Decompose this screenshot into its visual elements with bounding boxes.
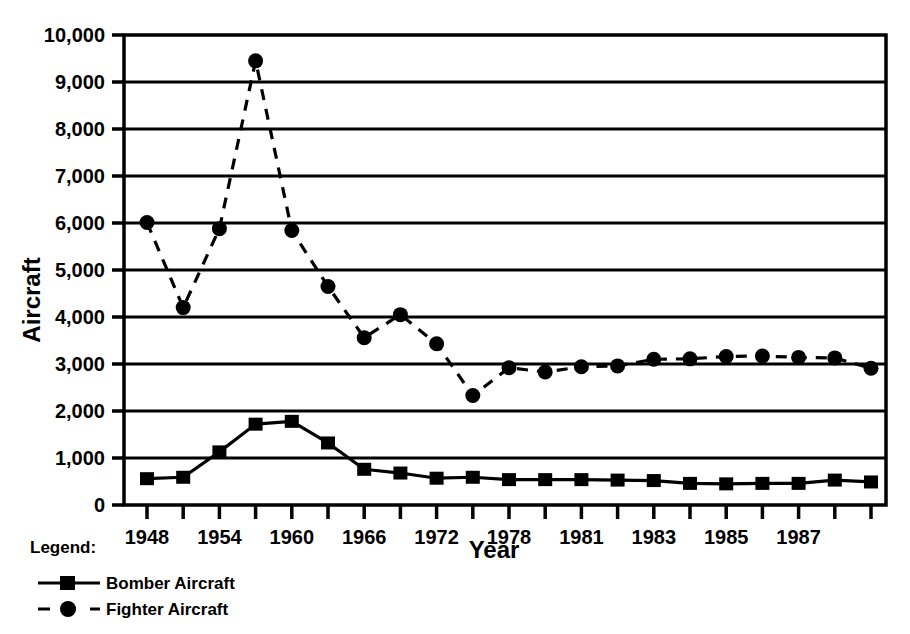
x-tick-label: 1983 xyxy=(632,526,677,548)
data-point-marker xyxy=(828,474,842,487)
chart-legend: Legend: Bomber Aircraft Fighter Aircraft xyxy=(30,538,235,619)
x-tick-label: 1987 xyxy=(776,526,821,548)
x-tick-label: 1966 xyxy=(342,526,387,548)
data-point-marker xyxy=(212,221,227,236)
data-point-marker xyxy=(176,300,191,315)
data-point-marker xyxy=(574,473,588,486)
y-tick-label: 9,000 xyxy=(55,71,105,93)
series-bomber-aircraft xyxy=(140,415,878,491)
data-point-marker xyxy=(284,223,299,238)
x-axis-title: Year xyxy=(469,536,520,563)
y-axis-tick-labels: 01,0002,0003,0004,0005,0006,0007,0008,00… xyxy=(44,24,105,516)
x-tick-label: 1948 xyxy=(125,526,170,548)
data-point-marker xyxy=(538,473,552,486)
series-line xyxy=(147,61,871,396)
data-point-marker xyxy=(248,53,263,68)
data-point-marker xyxy=(393,467,407,480)
y-tick-label: 4,000 xyxy=(55,306,105,328)
x-tick-label: 1985 xyxy=(704,526,749,548)
data-point-marker xyxy=(502,360,517,375)
y-axis-ticks xyxy=(112,35,124,505)
x-tick-label: 1954 xyxy=(197,526,242,548)
series-fighter-aircraft xyxy=(140,53,879,403)
data-point-marker xyxy=(864,361,879,376)
data-point-marker xyxy=(646,352,661,367)
data-point-marker xyxy=(466,471,480,484)
data-point-marker xyxy=(611,474,625,487)
y-gridlines xyxy=(124,82,886,458)
y-tick-label: 6,000 xyxy=(55,212,105,234)
y-tick-label: 0 xyxy=(94,494,105,516)
y-tick-label: 3,000 xyxy=(55,353,105,375)
data-point-marker xyxy=(285,415,299,428)
data-point-marker xyxy=(792,477,806,490)
chart-figure: 01,0002,0003,0004,0005,0006,0007,0008,00… xyxy=(0,0,910,634)
data-point-marker xyxy=(140,472,154,485)
y-tick-label: 8,000 xyxy=(55,118,105,140)
x-tick-label: 1972 xyxy=(414,526,459,548)
data-point-marker xyxy=(791,350,806,365)
data-point-marker xyxy=(212,445,226,458)
data-point-marker xyxy=(827,350,842,365)
legend-label-fighter-aircraft: Fighter Aircraft xyxy=(106,600,229,619)
y-axis-title: Aircraft xyxy=(18,257,45,342)
data-point-marker xyxy=(429,336,444,351)
data-point-marker xyxy=(719,349,734,364)
data-point-marker xyxy=(647,474,661,487)
data-point-marker xyxy=(140,215,155,230)
y-tick-label: 7,000 xyxy=(55,165,105,187)
y-tick-label: 2,000 xyxy=(55,400,105,422)
data-point-marker xyxy=(683,351,698,366)
legend-item-bomber-aircraft: Bomber Aircraft xyxy=(38,574,235,593)
legend-label-bomber-aircraft: Bomber Aircraft xyxy=(106,574,235,593)
data-point-marker xyxy=(357,463,371,476)
x-axis-ticks xyxy=(147,505,871,519)
data-point-marker xyxy=(755,349,770,364)
data-point-marker xyxy=(321,436,335,449)
data-point-marker xyxy=(430,472,444,485)
data-point-marker xyxy=(321,279,336,294)
data-point-marker xyxy=(249,418,263,431)
data-point-marker xyxy=(538,364,553,379)
legend-title: Legend: xyxy=(30,538,96,557)
y-tick-label: 10,000 xyxy=(44,24,105,46)
data-point-marker xyxy=(864,475,878,488)
legend-swatch-bomber xyxy=(38,576,100,590)
y-tick-label: 5,000 xyxy=(55,259,105,281)
x-tick-label: 1960 xyxy=(270,526,315,548)
y-tick-label: 1,000 xyxy=(55,447,105,469)
data-point-marker xyxy=(610,358,625,373)
x-tick-label: 1981 xyxy=(559,526,604,548)
legend-item-fighter-aircraft: Fighter Aircraft xyxy=(38,600,229,619)
data-point-marker xyxy=(465,388,480,403)
data-point-marker xyxy=(176,471,190,484)
aircraft-line-chart: 01,0002,0003,0004,0005,0006,0007,0008,00… xyxy=(0,0,910,634)
data-point-marker xyxy=(574,359,589,374)
legend-swatch-fighter xyxy=(38,601,100,617)
data-point-marker xyxy=(755,477,769,490)
data-point-marker xyxy=(357,330,372,345)
data-point-marker xyxy=(502,473,516,486)
data-point-marker xyxy=(683,477,697,490)
data-point-marker xyxy=(393,307,408,322)
data-point-marker xyxy=(719,477,733,490)
